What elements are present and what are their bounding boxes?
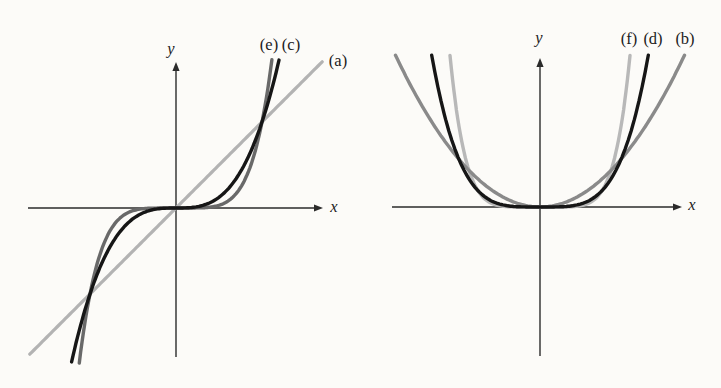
left-x-axis-arrow-icon [314, 204, 323, 211]
left-y-axis-arrow-icon [172, 62, 179, 71]
curve-label-c: (c) [282, 37, 300, 54]
curve-c [72, 60, 279, 362]
curve-label-a: (a) [329, 53, 347, 70]
curve-label-d: (d) [643, 31, 662, 48]
right-x-axis-arrow-icon [673, 203, 682, 210]
curve-label-b: (b) [675, 31, 694, 48]
left-y-axis-label: y [167, 41, 174, 58]
right-x-axis-label: x [688, 197, 695, 214]
power-functions-figure: y x (e) (c) (a) y x (f) (d) (b) [0, 0, 721, 388]
curve-label-f: (f) [621, 31, 637, 48]
left-x-axis-label: x [330, 199, 337, 216]
curve-label-e: (e) [260, 37, 278, 54]
right-y-axis-label: y [535, 30, 542, 47]
right-y-axis-arrow-icon [536, 58, 543, 67]
figure-svg [0, 0, 721, 388]
